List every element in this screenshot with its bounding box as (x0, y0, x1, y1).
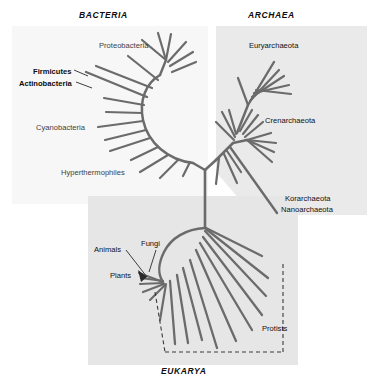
label-korarchaeota: Korarchaeota (285, 194, 331, 203)
label-cyanobacteria: Cyanobacteria (36, 123, 85, 132)
phylogenetic-tree-figure: BACTERIA ARCHAEA EUKARYA Proteobacteria … (0, 0, 367, 383)
tree-diagram-svg (0, 0, 367, 383)
label-proteobacteria: Proteobacteria (99, 41, 148, 50)
label-plants: Plants (110, 271, 131, 280)
heading-eukarya: EUKARYA (161, 366, 206, 376)
heading-archaea: ARCHAEA (248, 10, 295, 20)
panel-bacteria-background (12, 26, 208, 204)
eukarya-tip-plants (140, 283, 163, 284)
bacteria-tip-8 (106, 112, 142, 113)
label-animals: Animals (94, 245, 121, 254)
label-fungi: Fungi (141, 239, 160, 248)
label-protists: Protists (262, 324, 287, 333)
label-firmicutes: Firmicutes (33, 67, 71, 76)
label-euryarchaeota: Euryarchaeota (249, 41, 298, 50)
heading-bacteria: BACTERIA (79, 10, 128, 20)
label-crenarchaeota: Crenarchaeota (265, 116, 315, 125)
label-nanoarchaeota: Nanoarchaeota (281, 205, 333, 214)
panel-eukarya-background (88, 196, 298, 365)
label-actinobacteria: Actinobacteria (19, 79, 72, 88)
label-hyperthermophiles: Hyperthermophiles (61, 168, 125, 177)
